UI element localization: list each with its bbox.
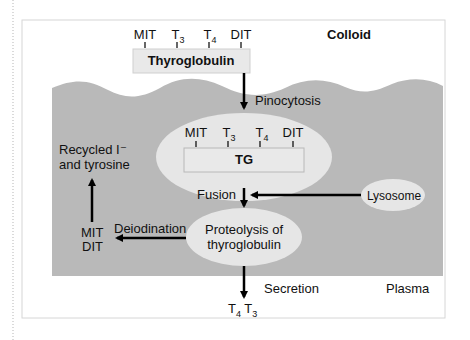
top-residue-t3: T3 [172, 28, 185, 43]
proteolysis-label-line2: thyroglobulin [207, 238, 281, 252]
thyroglobulin-label: Thyroglobulin [148, 54, 235, 68]
vesicle-residue-t3: T3 [223, 126, 236, 141]
mit-label: MIT [81, 226, 103, 240]
top-residue-mit: MIT [134, 28, 156, 42]
fusion-label: Fusion [197, 188, 236, 202]
top-residue-dit: DIT [231, 28, 252, 42]
output-hormones: T4 T3 [228, 302, 257, 317]
vesicle-residue-mit: MIT [185, 126, 207, 140]
plasma-label: Plasma [386, 282, 429, 296]
lysosome-label: Lysosome [367, 189, 421, 203]
pinocytosis-label: Pinocytosis [255, 94, 321, 108]
secretion-label: Secretion [264, 282, 319, 296]
recycled-label-line2: and tyrosine [59, 158, 130, 172]
dit-label: DIT [82, 240, 103, 254]
top-residue-t4: T4 [204, 28, 217, 43]
proteolysis-label-line1: Proteolysis of [205, 223, 283, 237]
tg-label: TG [235, 153, 253, 167]
deiodination-label: Deiodination [114, 222, 186, 236]
recycled-label-line1: Recycled I⁻ [59, 143, 127, 157]
vesicle-residue-t4: T4 [256, 126, 269, 141]
vesicle-residue-dit: DIT [283, 126, 304, 140]
colloid-label: Colloid [327, 28, 371, 42]
